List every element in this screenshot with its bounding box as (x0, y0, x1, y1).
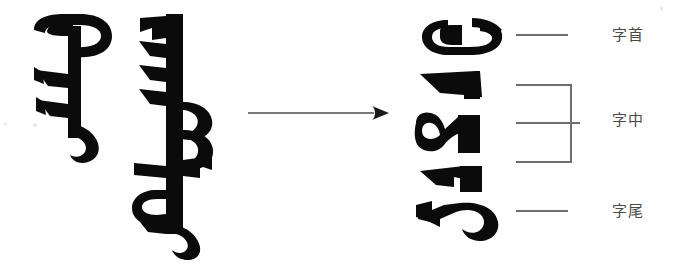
positional-form-medial-3 (420, 165, 498, 195)
transformation-arrow (246, 96, 392, 130)
mongolian-positional-forms-figure: 字首 字中 字尾 (0, 0, 684, 270)
arrow-head (372, 106, 389, 120)
positional-form-final (414, 199, 506, 243)
positional-form-initial (422, 18, 508, 58)
mongolian-word-glyph (18, 12, 128, 167)
annotation-connectors (506, 0, 590, 270)
label-word-initial: 字首 (612, 28, 644, 43)
label-word-final: 字尾 (612, 204, 644, 219)
scan-speckle (33, 123, 37, 127)
mongolian-word-glyph (126, 14, 236, 262)
source-word-one (18, 0, 138, 270)
scan-speckle (660, 6, 663, 11)
scan-speckle (4, 122, 7, 125)
positional-form-medial-1 (420, 71, 502, 101)
positional-form-medial-2 (414, 111, 500, 155)
label-word-medial: 字中 (612, 113, 644, 128)
source-word-two (126, 0, 246, 270)
